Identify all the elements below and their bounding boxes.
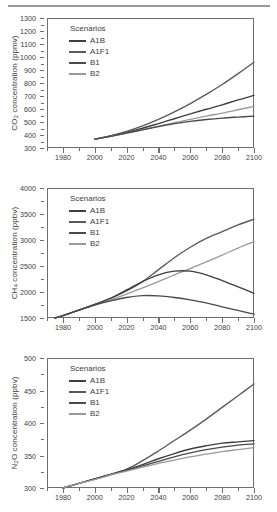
legend-title-ch4: Scenarios — [69, 194, 151, 203]
x-tick-label-ch4-2020: 2020 — [112, 323, 142, 332]
x-tick-n2o-1990 — [79, 488, 80, 491]
legend-swatch-ch4-B1 — [69, 232, 86, 234]
y-tick-ch4-1500 — [40, 318, 45, 319]
x-tick-ch4-2020 — [127, 318, 128, 323]
x-tick-label-ch4-2100: 2100 — [239, 323, 269, 332]
x-tick-co2-2020 — [127, 148, 128, 153]
legend-row-n2o-B1: B1 — [69, 398, 151, 409]
legend-label-ch4-B1: B1 — [90, 229, 100, 237]
x-tick-n2o-2080 — [222, 488, 223, 493]
legend-label-ch4-A1B: A1B — [90, 207, 105, 215]
y-tick-label-ch4-3500: 3500 — [6, 210, 36, 219]
legend-label-ch4-A1F1: A1F1 — [90, 218, 109, 226]
x-tick-n2o-2050 — [174, 488, 175, 491]
y-tick-ch4-2750 — [41, 253, 44, 254]
x-tick-label-ch4-2060: 2060 — [175, 323, 205, 332]
legend-row-ch4-A1B: A1B — [69, 206, 151, 217]
x-tick-label-co2-2040: 2040 — [143, 153, 173, 162]
x-tick-ch4-2080 — [222, 318, 223, 323]
legend-swatch-co2-B1 — [69, 62, 86, 64]
x-tick-co2-1980 — [63, 148, 64, 153]
legend-label-n2o-B2: B2 — [90, 410, 100, 418]
legend-row-ch4-B2: B2 — [69, 239, 151, 250]
x-tick-n2o-2040 — [158, 488, 159, 493]
x-ticks-ch4: 1980200020202040206020802100 — [47, 318, 254, 336]
y-tick-co2-600 — [40, 109, 45, 110]
y-tick-ch4-2250 — [41, 279, 44, 280]
y-tick-label-ch4-4000: 4000 — [6, 184, 36, 193]
x-tick-co2-2100 — [254, 148, 255, 153]
legend-label-n2o-A1B: A1B — [90, 377, 105, 385]
y-tick-co2-400 — [40, 135, 45, 136]
legend-swatch-n2o-A1B — [69, 380, 86, 382]
y-tick-ch4-3500 — [40, 214, 45, 215]
x-tick-label-ch4-2000: 2000 — [80, 323, 110, 332]
y-tick-co2-1100 — [40, 44, 45, 45]
legend-label-co2-B1: B1 — [90, 59, 100, 67]
x-tick-label-n2o-2000: 2000 — [80, 493, 110, 502]
legend-row-co2-A1F1: A1F1 — [69, 47, 151, 58]
x-tick-ch4-2050 — [174, 318, 175, 321]
y-tick-co2-1250 — [41, 25, 44, 26]
series-line-co2-B1 — [95, 116, 254, 139]
y-tick-ch4-1750 — [41, 305, 44, 306]
y-tick-n2o-425 — [41, 407, 44, 408]
header-divider — [8, 5, 270, 7]
legend-swatch-co2-A1B — [69, 40, 86, 42]
series-line-ch4-B2 — [55, 242, 254, 318]
x-tick-label-n2o-2100: 2100 — [239, 493, 269, 502]
x-tick-n2o-1970 — [47, 488, 48, 491]
y-tick-ch4-3750 — [41, 201, 44, 202]
plot-area-ch4: Scenarios A1BA1F1B1B2 — [47, 188, 254, 318]
legend-swatch-ch4-B2 — [69, 243, 86, 245]
legend-label-co2-A1B: A1B — [90, 37, 105, 45]
legend-swatch-n2o-A1F1 — [69, 391, 86, 393]
x-tick-label-co2-2100: 2100 — [239, 153, 269, 162]
legend-row-co2-B2: B2 — [69, 69, 151, 80]
y-tick-co2-700 — [40, 96, 45, 97]
y-tick-co2-950 — [41, 64, 44, 65]
y-tick-label-co2-1200: 1200 — [6, 27, 36, 36]
x-tick-co2-2010 — [111, 148, 112, 151]
x-tick-label-n2o-2080: 2080 — [207, 493, 237, 502]
x-tick-ch4-2030 — [143, 318, 144, 321]
x-tick-label-n2o-2020: 2020 — [112, 493, 142, 502]
y-tick-label-ch4-2000: 2000 — [6, 288, 36, 297]
legend-row-n2o-A1F1: A1F1 — [69, 387, 151, 398]
y-tick-label-n2o-300: 300 — [6, 484, 36, 493]
y-tick-label-co2-900: 900 — [6, 66, 36, 75]
legend-co2: Scenarios A1BA1F1B1B2 — [69, 24, 151, 80]
x-tick-co2-2090 — [238, 148, 239, 151]
y-tick-label-co2-700: 700 — [6, 92, 36, 101]
x-tick-co2-2040 — [158, 148, 159, 153]
x-tick-ch4-1970 — [47, 318, 48, 321]
x-tick-n2o-2060 — [190, 488, 191, 493]
figure-root: CO2 concentration (ppmv) 300400500600700… — [0, 0, 277, 512]
y-tick-co2-900 — [40, 70, 45, 71]
y-tick-label-co2-1000: 1000 — [6, 53, 36, 62]
y-tick-co2-750 — [41, 90, 44, 91]
x-tick-label-n2o-1980: 1980 — [48, 493, 78, 502]
y-tick-label-n2o-450: 450 — [6, 386, 36, 395]
x-tick-co2-2060 — [190, 148, 191, 153]
legend-label-co2-A1F1: A1F1 — [90, 48, 109, 56]
legend-row-n2o-A1B: A1B — [69, 376, 151, 387]
x-tick-co2-2080 — [222, 148, 223, 153]
y-tick-n2o-300 — [40, 488, 45, 489]
panel-co2: CO2 concentration (ppmv) 300400500600700… — [0, 12, 277, 170]
x-tick-label-n2o-2060: 2060 — [175, 493, 205, 502]
series-line-ch4-B1 — [55, 296, 254, 318]
x-ticks-n2o: 1980200020202040206020802100 — [47, 488, 254, 506]
legend-title-co2: Scenarios — [69, 24, 151, 33]
x-tick-n2o-2070 — [206, 488, 207, 491]
legend-label-co2-B2: B2 — [90, 70, 100, 78]
x-tick-co2-1990 — [79, 148, 80, 151]
y-tick-ch4-2500 — [40, 266, 45, 267]
x-tick-co2-2070 — [206, 148, 207, 151]
legend-row-ch4-B1: B1 — [69, 228, 151, 239]
x-tick-co2-1970 — [47, 148, 48, 151]
y-tick-co2-800 — [40, 83, 45, 84]
legend-label-ch4-B2: B2 — [90, 240, 100, 248]
legend-swatch-ch4-A1F1 — [69, 221, 86, 223]
y-ticks-ch4: 150020002500300035004000 — [10, 188, 44, 318]
